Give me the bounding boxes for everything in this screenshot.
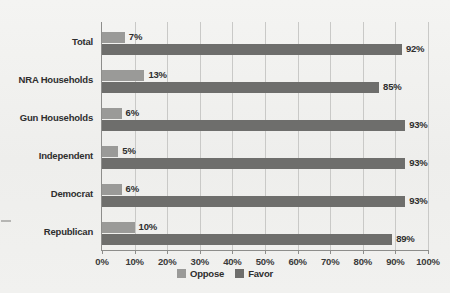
- bar-group: 13%85%: [102, 60, 428, 98]
- bar-value-favor: 92%: [406, 43, 424, 54]
- gridline: [428, 22, 429, 250]
- chart-legend: OpposeFavor: [0, 268, 450, 279]
- x-axis-tick-mark: [102, 250, 103, 254]
- bar-chart: 7%92%13%85%6%93%5%93%6%93%10%89% 0%10%20…: [0, 0, 450, 293]
- legend-label: Oppose: [190, 268, 224, 279]
- x-axis-tick-mark: [135, 250, 136, 254]
- x-axis-tick-label: 20%: [158, 256, 176, 267]
- bar-oppose: [102, 70, 144, 81]
- bar-favor: [102, 234, 392, 245]
- bar-value-favor: 93%: [409, 157, 427, 168]
- bar-favor: [102, 82, 379, 93]
- scan-artifact-dash: [1, 220, 11, 222]
- legend-label: Favor: [248, 268, 273, 279]
- x-axis-tick-mark: [298, 250, 299, 254]
- bar-oppose: [102, 146, 118, 157]
- bar-value-oppose: 10%: [139, 221, 157, 232]
- category-label: Total: [72, 36, 93, 47]
- bar-value-oppose: 6%: [126, 183, 139, 194]
- category-label: Republican: [44, 226, 93, 237]
- legend-item: Oppose: [177, 268, 224, 279]
- bar-value-favor: 85%: [383, 81, 401, 92]
- legend-swatch-icon: [235, 269, 244, 278]
- x-axis-tick-label: 70%: [321, 256, 339, 267]
- bar-group: 6%93%: [102, 174, 428, 212]
- x-axis-tick-label: 30%: [191, 256, 209, 267]
- x-axis-tick-mark: [200, 250, 201, 254]
- x-axis-tick-label: 0%: [95, 256, 108, 267]
- bar-oppose: [102, 108, 122, 119]
- legend-swatch-icon: [177, 269, 186, 278]
- bar-oppose: [102, 32, 125, 43]
- x-axis-tick-label: 90%: [386, 256, 404, 267]
- bar-value-favor: 93%: [409, 119, 427, 130]
- x-axis-tick-label: 100%: [416, 256, 440, 267]
- bar-favor: [102, 158, 405, 169]
- bar-favor: [102, 120, 405, 131]
- x-axis-tick-label: 50%: [256, 256, 274, 267]
- bar-favor: [102, 196, 405, 207]
- bar-oppose: [102, 184, 122, 195]
- x-axis-tick-label: 80%: [354, 256, 372, 267]
- bar-value-oppose: 6%: [126, 107, 139, 118]
- bar-value-favor: 89%: [396, 233, 414, 244]
- x-axis-tick-label: 10%: [125, 256, 143, 267]
- legend-item: Favor: [235, 268, 273, 279]
- x-axis-tick-mark: [395, 250, 396, 254]
- category-label: Independent: [39, 150, 93, 161]
- x-axis-tick-mark: [167, 250, 168, 254]
- category-label: Gun Households: [20, 112, 93, 123]
- bar-group: 7%92%: [102, 22, 428, 60]
- x-axis-tick-mark: [265, 250, 266, 254]
- bar-value-favor: 93%: [409, 195, 427, 206]
- bar-value-oppose: 13%: [148, 69, 166, 80]
- category-label: Democrat: [51, 188, 93, 199]
- plot-area: 7%92%13%85%6%93%5%93%6%93%10%89% 0%10%20…: [102, 22, 428, 250]
- x-axis-tick-mark: [232, 250, 233, 254]
- bar-favor: [102, 44, 402, 55]
- bar-value-oppose: 7%: [129, 31, 142, 42]
- bar-group: 10%89%: [102, 212, 428, 250]
- bar-value-oppose: 5%: [122, 145, 135, 156]
- category-label: NRA Households: [19, 74, 93, 85]
- bar-oppose: [102, 222, 135, 233]
- x-axis-tick-label: 40%: [223, 256, 241, 267]
- x-axis-tick-mark: [428, 250, 429, 254]
- x-axis-tick-mark: [330, 250, 331, 254]
- bar-group: 6%93%: [102, 98, 428, 136]
- bar-group: 5%93%: [102, 136, 428, 174]
- x-axis-tick-label: 60%: [288, 256, 306, 267]
- x-axis-tick-mark: [363, 250, 364, 254]
